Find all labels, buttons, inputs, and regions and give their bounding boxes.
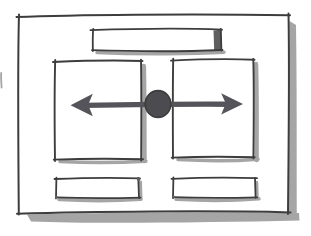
left-panel-shadow-bottom [60,161,146,162]
footer-right-shadow-right [257,182,258,197]
drag-handle-circle-icon [145,91,171,118]
right-panel-shadow-right [256,64,257,160]
paper-background [0,0,311,236]
footer-right-shadow [176,199,259,201]
drag-handle-dot [145,91,171,118]
frame-shadow-right [289,21,297,218]
frame-shadow-bottom [27,212,300,223]
wireframe-sketch [0,0,311,236]
left-panel-shadow-right [144,66,145,161]
stray-pen-mark [1,73,2,88]
footer-left-shadow [59,199,141,200]
right-panel-shadow-bottom [178,159,258,161]
footer-left-shadow-right [141,182,142,198]
frame-edge-right [288,14,289,215]
footer-bar-right-corner-dots [172,196,175,199]
header-bar-shadow [97,52,224,53]
frame-edge-left [18,15,19,215]
